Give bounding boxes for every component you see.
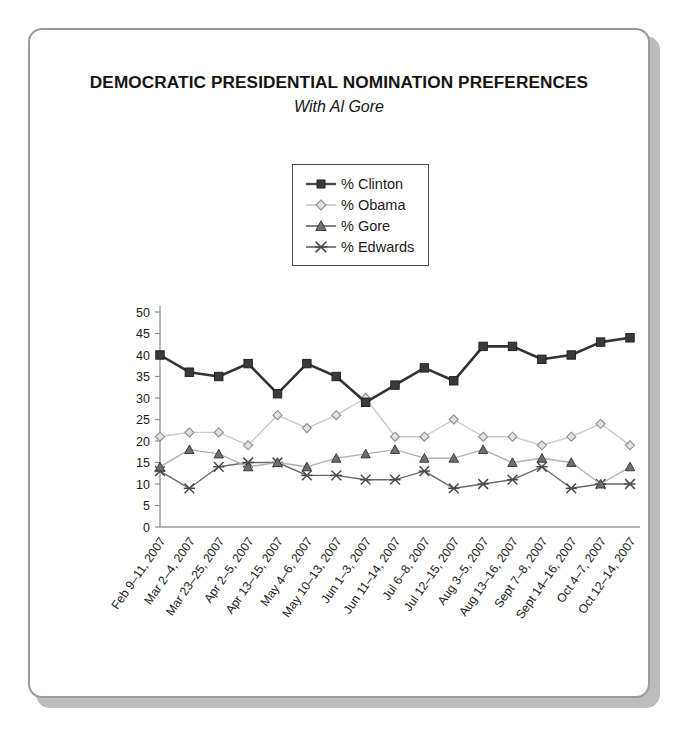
data-point: [185, 368, 193, 376]
data-point: [536, 462, 547, 472]
y-axis-tick-label: 40: [136, 349, 150, 363]
data-point: [537, 441, 546, 450]
data-point: [156, 432, 165, 441]
data-point: [244, 359, 252, 367]
data-point: [185, 428, 194, 437]
data-point: [185, 445, 194, 454]
data-point: [215, 372, 223, 380]
data-point: [332, 372, 340, 380]
data-point: [567, 351, 575, 359]
y-axis-tick-label: 30: [136, 392, 150, 406]
data-point: [331, 471, 342, 481]
series-edwards: [154, 458, 635, 494]
y-axis-tick-label: 45: [136, 327, 150, 341]
data-point: [156, 351, 164, 359]
data-point: [625, 462, 634, 471]
data-point: [302, 424, 311, 433]
data-point: [478, 445, 487, 454]
data-point: [508, 342, 516, 350]
data-point: [537, 454, 546, 463]
data-point: [626, 334, 634, 342]
y-axis-tick-label: 10: [136, 478, 150, 492]
data-point: [566, 483, 577, 493]
data-point: [303, 359, 311, 367]
chart-card: DEMOCRATIC PRESIDENTIAL NOMINATION PREFE…: [28, 28, 650, 698]
data-point: [184, 483, 195, 493]
data-point: [596, 338, 604, 346]
data-point: [419, 466, 430, 476]
data-point: [213, 462, 224, 472]
series-line: [160, 338, 630, 403]
series-obama: [156, 394, 635, 450]
data-point: [391, 381, 399, 389]
y-axis-tick-label: 15: [136, 456, 150, 470]
data-point: [301, 471, 312, 481]
data-point: [389, 475, 400, 485]
data-point: [507, 475, 518, 485]
data-point: [449, 415, 458, 424]
data-point: [567, 432, 576, 441]
series-line: [160, 463, 630, 489]
y-axis-tick-label: 20: [136, 435, 150, 449]
data-point: [448, 483, 459, 493]
chart-plot-area: 05101520253035404550Feb 9–11, 2007Mar 2–…: [30, 30, 652, 700]
data-point: [538, 355, 546, 363]
data-point: [390, 445, 399, 454]
data-point: [420, 432, 429, 441]
data-point: [479, 432, 488, 441]
data-point: [478, 479, 489, 489]
data-point: [479, 342, 487, 350]
data-point: [214, 428, 223, 437]
screenshot-root: DEMOCRATIC PRESIDENTIAL NOMINATION PREFE…: [0, 0, 689, 746]
series-clinton: [156, 334, 634, 407]
y-axis-tick-label: 0: [143, 521, 150, 535]
y-axis-tick-label: 35: [136, 370, 150, 384]
data-point: [508, 432, 517, 441]
data-point: [155, 462, 164, 471]
data-point: [332, 411, 341, 420]
y-axis-tick-label: 50: [136, 306, 150, 320]
data-point: [360, 475, 371, 485]
data-point: [624, 479, 635, 489]
data-point: [420, 364, 428, 372]
data-point: [450, 377, 458, 385]
y-axis-tick-label: 25: [136, 413, 150, 427]
y-axis-tick-label: 5: [143, 499, 150, 513]
data-point: [273, 390, 281, 398]
data-point: [361, 398, 369, 406]
